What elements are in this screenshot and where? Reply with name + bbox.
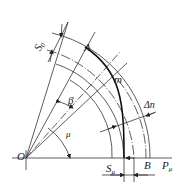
label-beta: β <box>68 95 73 106</box>
delta-n-arrow-right <box>146 113 154 116</box>
label-m: m <box>114 74 122 85</box>
label-A: A <box>84 42 91 53</box>
delta-n-arrow-left <box>108 126 116 129</box>
label-O: O <box>17 151 25 162</box>
label-mu: μ <box>66 130 71 139</box>
label-delta-n: Δn <box>144 100 155 110</box>
label-s-mu: Sμ <box>106 163 115 176</box>
profile-curve <box>85 47 124 158</box>
diagram-drawing <box>0 0 184 192</box>
diagram-canvas: A m O B β μ Δn S0 Sμ Pμ <box>0 0 184 192</box>
s0-arrow-bottom <box>50 50 52 62</box>
label-p-mu: Pμ <box>162 160 172 173</box>
label-B: B <box>144 160 151 171</box>
arc-fourth <box>70 80 112 158</box>
